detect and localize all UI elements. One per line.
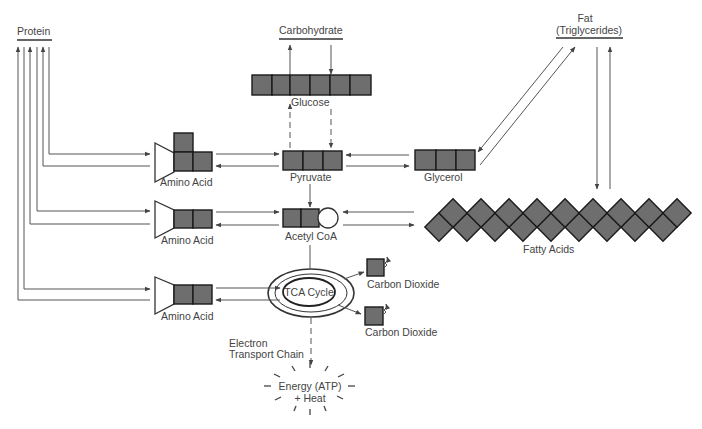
glycerol: Glycerol <box>415 150 475 183</box>
svg-text:Fat: Fat <box>577 12 592 24</box>
protein-connections <box>18 47 150 300</box>
energy-output: Energy (ATP) + Heat <box>264 362 355 415</box>
svg-text:Acetyl CoA: Acetyl CoA <box>285 230 337 242</box>
svg-text:Transport Chain: Transport Chain <box>229 348 304 360</box>
glucose: Glucose <box>252 75 371 108</box>
svg-text:Fatty Acids: Fatty Acids <box>523 243 574 255</box>
svg-text:Carbohydrate: Carbohydrate <box>279 24 343 36</box>
protein-header: Protein <box>17 25 52 40</box>
svg-text:TCA Cycle: TCA Cycle <box>284 286 334 298</box>
electron-transport-chain-label: Electron Transport Chain <box>229 337 304 360</box>
svg-text:(Triglycerides): (Triglycerides) <box>556 24 622 36</box>
fatty-acids: Fatty Acids <box>425 199 691 255</box>
carbon-dioxide-2: Carbon Dioxide <box>338 304 438 338</box>
amino-acid-2: Amino Acid <box>155 201 214 246</box>
svg-text:Amino Acid: Amino Acid <box>161 310 214 322</box>
pyruvate: Pyruvate <box>283 151 342 183</box>
tca-cycle: TCA Cycle <box>268 269 354 317</box>
svg-text:Protein: Protein <box>17 25 50 37</box>
svg-text:Glucose: Glucose <box>291 96 330 108</box>
carbon-dioxide-1: Carbon Dioxide <box>344 257 440 290</box>
svg-text:Carbon Dioxide: Carbon Dioxide <box>365 326 438 338</box>
svg-text:Carbon Dioxide: Carbon Dioxide <box>367 278 440 290</box>
amino-acid-1: Amino Acid <box>155 133 213 188</box>
metabolism-diagram: Protein Carbohydrate Fat (Triglycerides)… <box>0 0 702 429</box>
carbohydrate-header: Carbohydrate <box>279 24 343 39</box>
svg-text:Glycerol: Glycerol <box>424 171 463 183</box>
svg-text:Amino Acid: Amino Acid <box>160 176 213 188</box>
acetyl-coa: Acetyl CoA <box>283 208 338 242</box>
amino-acid-3: Amino Acid <box>155 277 214 322</box>
svg-text:Amino Acid: Amino Acid <box>161 234 214 246</box>
svg-text:Pyruvate: Pyruvate <box>290 171 332 183</box>
svg-text:Energy (ATP): Energy (ATP) <box>279 380 342 392</box>
svg-text:+ Heat: + Heat <box>294 392 325 404</box>
fat-header: Fat (Triglycerides) <box>556 12 623 38</box>
